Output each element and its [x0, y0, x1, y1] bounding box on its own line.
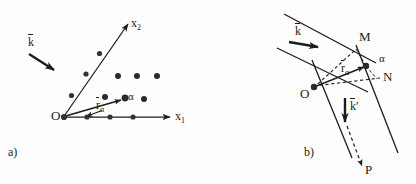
- r-alpha-vector-label-a: rα: [96, 99, 104, 111]
- overbar: [350, 98, 355, 99]
- figure-canvas: [0, 0, 416, 184]
- point-m-label: M: [359, 30, 371, 43]
- r-alpha-vector-label-b: rα: [341, 62, 349, 74]
- overbar: [341, 60, 344, 61]
- lattice-dot: [154, 73, 160, 79]
- panel-label-a: a): [8, 146, 17, 158]
- k-prime-vector-label: k′: [350, 100, 359, 112]
- lattice-dot: [115, 73, 121, 79]
- panel-label-b: b): [304, 146, 314, 158]
- axis-x1-label: x1: [175, 110, 185, 122]
- overbar: [96, 97, 99, 98]
- k-vector-label-a: k: [28, 36, 34, 48]
- origin-dot-b: [311, 84, 317, 90]
- figure-container: k x2 x1 O α rα a) k M α N rα O k′ P: [0, 0, 416, 184]
- overbar: [28, 34, 33, 35]
- origin-dot-a: [61, 114, 67, 120]
- lattice-dot: [134, 73, 140, 79]
- atom-alpha-label-b: α: [379, 53, 385, 64]
- lattice-dot: [141, 96, 147, 102]
- atom-alpha-label-a: α: [128, 91, 134, 102]
- lattice-dot: [107, 114, 112, 119]
- lattice-dot: [69, 93, 74, 98]
- lattice-dot: [130, 114, 135, 119]
- lattice-dot: [83, 71, 88, 76]
- origin-label-a: O: [51, 109, 60, 122]
- point-p-label: P: [365, 163, 372, 176]
- origin-label-b: O: [300, 87, 309, 100]
- k-vector-label-b: k: [295, 25, 301, 37]
- atom-alpha-dot-b: [363, 63, 369, 69]
- axis-x2-label: x2: [131, 17, 141, 29]
- overbar: [295, 23, 300, 24]
- k-vector-arrow-a: [29, 54, 54, 70]
- ray-to-p: [347, 126, 362, 166]
- point-n-label: N: [383, 70, 392, 83]
- lattice-dot: [97, 51, 102, 56]
- lattice-dot: [84, 114, 89, 119]
- plane-trace-through-alpha: [356, 45, 398, 153]
- k-vector-arrow-b: [289, 42, 318, 47]
